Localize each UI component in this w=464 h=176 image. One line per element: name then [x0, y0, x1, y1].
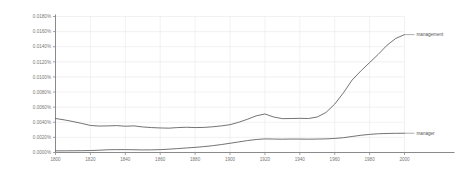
y-tick-label: 0.0080%: [33, 90, 51, 95]
series-label-management[interactable]: management: [417, 32, 445, 37]
x-tick-label: 1940: [295, 157, 306, 162]
y-tick-label: 0.0140%: [33, 44, 51, 49]
x-axis-ticks: 1800182018401860188019001920194019601980…: [50, 153, 410, 163]
x-tick-label: 1880: [190, 157, 201, 162]
y-tick-label: 0.0100%: [33, 75, 51, 80]
y-tick-label: 0.0060%: [33, 105, 51, 110]
x-tick-label: 1980: [364, 157, 375, 162]
series-label-manager[interactable]: manager: [417, 131, 436, 136]
ngram-viewer-chart: 0.0000%0.0020%0.0040%0.0060%0.0080%0.010…: [0, 0, 464, 176]
x-tick-label: 1840: [120, 157, 131, 162]
x-tick-label: 2000: [399, 157, 410, 162]
y-tick-label: 0.0120%: [33, 60, 51, 65]
x-tick-label: 1860: [155, 157, 166, 162]
x-tick-label: 1820: [85, 157, 96, 162]
x-tick-label: 1960: [330, 157, 341, 162]
y-axis-ticks: 0.0000%0.0020%0.0040%0.0060%0.0080%0.010…: [33, 14, 56, 155]
y-tick-label: 0.0040%: [33, 120, 51, 125]
y-tick-label: 0.0020%: [33, 135, 51, 140]
x-tick-label: 1920: [260, 157, 271, 162]
gridlines: [56, 17, 405, 153]
x-tick-label: 1800: [50, 157, 61, 162]
x-tick-label: 1900: [225, 157, 236, 162]
series-labels: managementmanager: [405, 32, 445, 136]
axes: [56, 15, 455, 153]
y-tick-label: 0.0180%: [33, 14, 51, 19]
y-tick-label: 0.0000%: [33, 150, 51, 155]
chart-canvas: 0.0000%0.0020%0.0040%0.0060%0.0080%0.010…: [0, 0, 464, 176]
y-tick-label: 0.0160%: [33, 29, 51, 34]
